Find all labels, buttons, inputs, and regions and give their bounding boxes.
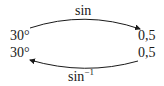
forward-arrow	[30, 19, 140, 29]
sin-label: sin	[75, 4, 91, 18]
angle-top: 30°	[10, 29, 30, 43]
arcsin-base: sin	[68, 69, 84, 84]
arcsin-label: sin−1	[68, 70, 94, 84]
arcsin-exponent: −1	[84, 67, 94, 77]
value-bottom: 0,5	[138, 46, 156, 60]
value-top: 0,5	[138, 29, 156, 43]
angle-bottom: 30°	[10, 46, 30, 60]
